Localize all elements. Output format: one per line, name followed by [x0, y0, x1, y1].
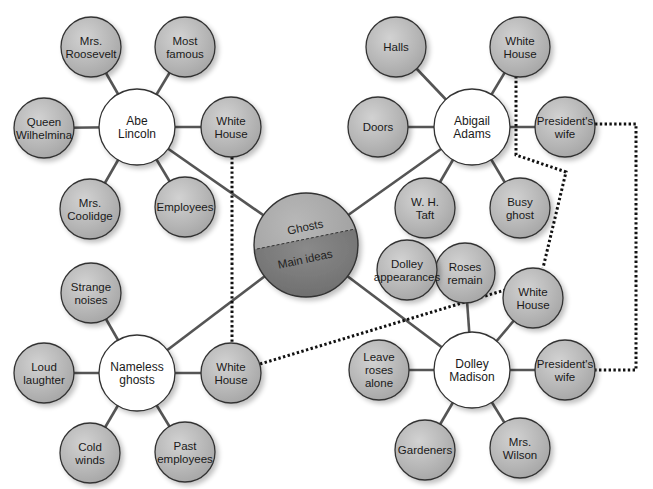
node-label: President's [537, 358, 594, 370]
hub-node-dolley[interactable]: DolleyMadison [434, 332, 510, 408]
node-label: Doors [363, 121, 394, 133]
node-label: roses [365, 364, 393, 376]
node-label: Abigail [454, 114, 490, 128]
node-label: wife [554, 128, 575, 140]
node-label: Roses [449, 261, 482, 273]
satellite-node-abigail-w-h-taft[interactable]: W. H.Taft [395, 178, 455, 238]
satellite-node-dolley-president-s-wife[interactable]: President'swife [535, 340, 595, 400]
node-label: Dolley [391, 258, 423, 270]
satellite-node-dolley-leave-roses-alone[interactable]: Leaverosesalone [349, 340, 409, 400]
node-label: House [214, 374, 247, 386]
satellite-node-dolley-mrs-wilson[interactable]: Mrs.Wilson [490, 418, 550, 478]
node-label: White [216, 115, 245, 127]
satellite-node-nameless-white-house[interactable]: WhiteHouse [201, 343, 261, 403]
node-label: noises [74, 294, 107, 306]
node-label: Leave [363, 351, 394, 363]
node-label: Lincoln [118, 127, 156, 141]
node-label: Nameless [110, 360, 163, 374]
node-label: Halls [383, 41, 409, 53]
node-label: Cold [78, 441, 102, 453]
satellite-node-abe-employees[interactable]: Employees [155, 177, 215, 237]
node-label: Dolley [455, 357, 488, 371]
hub-node-abigail[interactable]: AbigailAdams [434, 89, 510, 165]
satellite-node-nameless-strange-noises[interactable]: Strangenoises [61, 263, 121, 323]
satellite-node-abigail-president-s-wife[interactable]: President'swife [535, 97, 595, 157]
satellite-node-dolley-gardeners[interactable]: Gardeners [395, 420, 455, 480]
node-label: Strange [71, 281, 111, 293]
node-label: White [216, 361, 245, 373]
node-label: remain [447, 274, 482, 286]
node-label: Past [173, 440, 197, 452]
satellite-node-abe-queen-wilhelmina[interactable]: QueenWilhelmina [14, 98, 74, 158]
node-label: Most [173, 35, 199, 47]
node-label: President's [537, 115, 594, 127]
satellite-node-abe-most-famous[interactable]: Mostfamous [155, 17, 215, 77]
node-label: Gardeners [398, 444, 453, 456]
node-label: W. H. [411, 196, 439, 208]
hub-node-nameless[interactable]: Namelessghosts [99, 335, 175, 411]
node-label: House [503, 48, 536, 60]
node-label: Abe [126, 114, 148, 128]
node-label: Roosevelt [65, 48, 117, 60]
node-label: Busy [507, 196, 533, 208]
node-label: Wilson [503, 449, 538, 461]
node-label: Loud [31, 361, 57, 373]
node-label: House [214, 128, 247, 140]
node-label: wife [554, 371, 575, 383]
satellite-node-nameless-cold-winds[interactable]: Coldwinds [60, 423, 120, 483]
node-label: Coolidge [67, 210, 112, 222]
node-label: employees [157, 453, 213, 465]
node-label: House [516, 299, 549, 311]
node-label: alone [365, 377, 393, 389]
satellite-node-nameless-loud-laughter[interactable]: Loudlaughter [14, 343, 74, 403]
node-label: Wilhelmina [16, 129, 73, 141]
satellite-node-abe-white-house[interactable]: WhiteHouse [201, 97, 261, 157]
node-label: winds [74, 454, 105, 466]
node-label: Queen [27, 116, 62, 128]
concept-map: Mrs.RooseveltMostfamousQueenWilhelminaWh… [0, 0, 653, 489]
hub-node-abe[interactable]: AbeLincoln [99, 89, 175, 165]
satellite-node-dolley-white-house[interactable]: WhiteHouse [503, 268, 563, 328]
node-label: Adams [453, 127, 490, 141]
satellite-node-dolley-roses-remain[interactable]: Rosesremain [435, 243, 495, 303]
satellite-node-abigail-white-house[interactable]: WhiteHouse [490, 17, 550, 77]
node-label: ghosts [119, 373, 154, 387]
node-label: White [518, 286, 547, 298]
node-label: appearances [374, 271, 441, 283]
center-circle[interactable] [252, 193, 360, 299]
satellite-node-abe-mrs-coolidge[interactable]: Mrs.Coolidge [60, 179, 120, 239]
center-node-main-ideas: GhostsMain ideas [252, 193, 360, 299]
dotted-link-abigail-wife-to-dolley-wife [595, 124, 636, 370]
node-label: Mrs. [509, 436, 531, 448]
satellite-node-dolley-appearances[interactable]: Dolleyappearances [374, 240, 441, 300]
satellite-node-abigail-busy-ghost[interactable]: Busyghost [490, 178, 550, 238]
node-label: laughter [23, 374, 65, 386]
node-label: Madison [449, 370, 494, 384]
node-label: famous [166, 48, 204, 60]
node-label: Employees [157, 201, 214, 213]
satellite-node-nameless-past-employees[interactable]: Pastemployees [155, 422, 215, 482]
satellite-node-abigail-doors[interactable]: Doors [348, 97, 408, 157]
node-label: Mrs. [80, 35, 102, 47]
satellite-node-abigail-halls[interactable]: Halls [366, 17, 426, 77]
satellite-node-abe-mrs-roosevelt[interactable]: Mrs.Roosevelt [61, 17, 121, 77]
node-label: ghost [506, 209, 535, 221]
node-label: Taft [416, 209, 435, 221]
node-label: White [505, 35, 534, 47]
node-label: Mrs. [79, 197, 101, 209]
